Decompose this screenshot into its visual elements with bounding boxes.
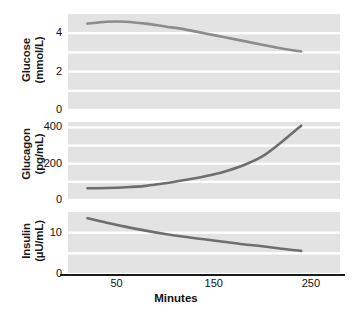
x-axis-line xyxy=(60,274,345,276)
y-axis-label-glucagon-line1: Glucagon xyxy=(20,110,33,198)
gridline xyxy=(68,109,340,110)
chart-figure: Glucose (mmol/L) 024 Glucagon (pg/mL) 02… xyxy=(0,0,352,315)
y-tick-insulin-10: 10 xyxy=(32,226,62,238)
plot-area-glucagon xyxy=(68,122,340,200)
gridline xyxy=(68,163,340,165)
x-tick-250: 250 xyxy=(291,277,331,289)
glucose-line-svg xyxy=(68,14,340,110)
data-line-glucagon xyxy=(87,126,301,189)
plot-area-glucose xyxy=(68,14,340,110)
gridline xyxy=(68,90,340,92)
gridline xyxy=(68,199,340,200)
gridline xyxy=(68,252,340,254)
data-line-glucose xyxy=(87,21,301,51)
gridline xyxy=(68,181,340,183)
x-tick-150: 150 xyxy=(194,277,234,289)
y-tick-insulin-0: 0 xyxy=(32,267,62,279)
insulin-line-svg xyxy=(68,212,340,274)
gridline xyxy=(68,144,340,146)
y-tick-glucagon-200: 200 xyxy=(32,157,62,169)
x-tick-50: 50 xyxy=(97,277,137,289)
data-line-insulin xyxy=(87,218,301,251)
y-axis-label-insulin-line1: Insulin xyxy=(20,200,33,282)
plot-area-insulin xyxy=(68,212,340,274)
x-axis-title: Minutes xyxy=(0,292,352,304)
y-axis-label-glucose-line1: Glucose xyxy=(20,12,33,108)
y-tick-glucagon-400: 400 xyxy=(32,120,62,132)
gridline xyxy=(68,231,340,233)
y-tick-glucose-2: 2 xyxy=(32,65,62,77)
gridline xyxy=(68,70,340,72)
y-tick-glucose-4: 4 xyxy=(32,26,62,38)
glucagon-line-svg xyxy=(68,122,340,200)
